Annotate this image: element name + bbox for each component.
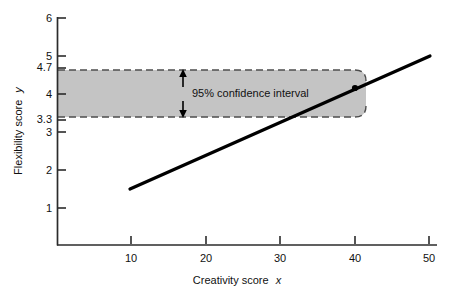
predicted-value-point: [352, 85, 358, 91]
x-tick-label-10: 10: [125, 252, 137, 264]
x-tick-label-20: 20: [200, 252, 212, 264]
x-tick-label-50: 50: [423, 252, 435, 264]
y-tick-label-4: 4: [46, 88, 52, 100]
x-axis-title-main: Creativity score: [193, 274, 269, 286]
y-axis-title: Flexibility score y: [12, 86, 24, 175]
x-axis-title: Creativity score x: [193, 274, 282, 286]
x-tick-label-40: 40: [349, 252, 361, 264]
chart-canvas: 95% confidence interval 6 5: [0, 0, 451, 291]
confidence-interval-label: 95% confidence interval: [192, 87, 309, 99]
x-tick-label-30: 30: [274, 252, 286, 264]
y-tick-label-3: 3: [46, 126, 52, 138]
y-axis-title-main: Flexibility score: [12, 100, 24, 175]
y-tick-label-6: 6: [46, 12, 52, 24]
y-tick-label-2: 2: [46, 164, 52, 176]
y-tick-label-1: 1: [46, 202, 52, 214]
y-tick-label-4-7: 4.7: [37, 61, 52, 73]
chart-figure: 95% confidence interval 6 5: [0, 0, 451, 291]
x-axis-title-variable: x: [275, 274, 282, 286]
y-tick-label-3-3: 3.3: [37, 113, 52, 125]
